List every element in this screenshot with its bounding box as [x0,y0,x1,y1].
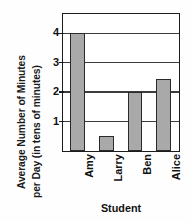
bar-alice [156,79,171,151]
y-tick-label-4: 4 [45,27,59,38]
plot-inner [63,14,179,151]
plot-area [62,13,180,152]
x-tick-label-larry: Larry [112,154,124,182]
x-tick-label-amy: Amy [83,154,95,178]
bar-chart-figure: Average Number of Minutes per Day (in te… [0,0,191,221]
x-axis-title: Student [62,202,180,214]
bar-amy [70,33,85,151]
bar-ben [128,92,143,151]
y-tick-mark-3 [59,62,64,63]
y-tick-label-2: 2 [45,86,59,97]
x-axis-tick-labels: AmyLarryBenAlice [62,154,180,198]
y-tick-mark-4 [59,33,64,34]
y-axis-title-line-1: Average Number of Minutes [16,55,27,189]
y-tick-mark-1 [59,121,64,122]
x-tick-label-alice: Alice [170,154,182,180]
y-tick-mark-2 [59,91,64,92]
bar-larry [99,136,114,151]
y-axis-title: Average Number of Minutes per Day (in te… [0,0,46,200]
x-tick-label-ben: Ben [141,154,153,175]
y-tick-label-1: 1 [45,116,59,127]
y-axis-tick-labels: 1234 [44,0,59,221]
y-axis-title-line-2: per Day (in tens of minutes) [31,65,42,198]
y-tick-label-3: 3 [45,57,59,68]
